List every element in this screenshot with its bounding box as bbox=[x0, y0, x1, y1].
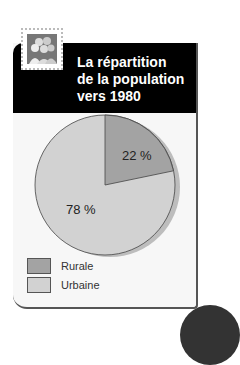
decorative-shape bbox=[180, 305, 240, 365]
legend-item-urbaine: Urbaine bbox=[27, 277, 100, 293]
chart-title: La répartition de la population vers 198… bbox=[77, 54, 197, 105]
label-rurale: 22 % bbox=[122, 148, 152, 163]
label-urbaine: 78 % bbox=[66, 202, 96, 217]
swatch-urbaine bbox=[27, 277, 51, 293]
population-stamp-icon bbox=[21, 28, 63, 70]
legend-item-rurale: Rurale bbox=[27, 258, 93, 274]
pie-chart bbox=[33, 114, 183, 264]
swatch-rurale bbox=[27, 258, 51, 274]
